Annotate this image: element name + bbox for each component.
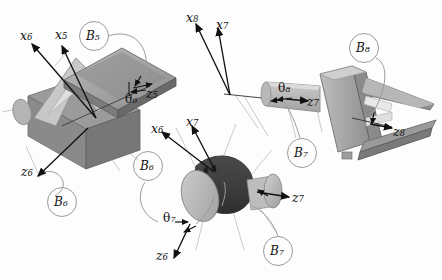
label-B8-right: B8 (356, 41, 370, 55)
cylinder-assembly-geometry (176, 124, 282, 250)
label-B6-mid: B6 (140, 159, 154, 173)
label-z5-left: z5 (146, 86, 158, 101)
cylinder-hole-a (204, 167, 208, 173)
x8-arrow-right (196, 24, 230, 95)
label-theta7: θ7 (163, 211, 175, 225)
label-theta6: θ6 (125, 92, 137, 106)
label-x5-left: x5 (55, 27, 67, 42)
theta7-arrows (175, 222, 196, 232)
x7-arrow-right (218, 28, 230, 95)
kinematics-figure: x6 x5 z5 θ6 z6 B5 B6 x6 x7 z7 z6 θ7 B6 B… (0, 0, 442, 280)
label-x7-right: x7 (216, 17, 228, 32)
label-B5: B5 (86, 29, 100, 43)
label-B7-right: B7 (294, 146, 308, 160)
theta7-tick-lower (184, 226, 196, 232)
label-z7-right: z7 (307, 94, 319, 109)
figure-canvas (0, 0, 442, 280)
label-B7-mid: B7 (270, 244, 284, 258)
gripper-assembly-geometry (224, 66, 436, 160)
label-x8-right: x8 (186, 10, 198, 25)
z6-arrow-mid (174, 224, 190, 258)
B6-mid-leader (140, 182, 158, 222)
label-x6-left: x6 (20, 28, 32, 43)
label-x7-mid: x7 (186, 114, 198, 129)
label-z6-mid: z6 (156, 248, 168, 263)
label-x6-mid: x6 (151, 121, 163, 136)
label-z6-left: z6 (21, 164, 33, 179)
gripper-base-nub (342, 152, 352, 159)
B7-mid-leader (252, 206, 278, 236)
gripper-arm-endcap (261, 82, 271, 106)
label-theta8: θ8 (278, 81, 290, 95)
label-B6-left: B6 (54, 195, 68, 209)
label-z8-right: z8 (393, 124, 405, 139)
cylinder-stub-cap (264, 174, 282, 208)
B6-leader-left (44, 171, 63, 196)
label-z7-mid: z7 (292, 190, 304, 205)
